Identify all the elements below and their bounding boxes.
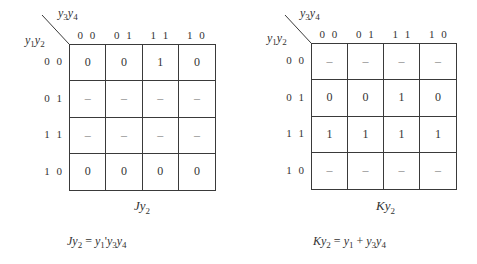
kmap-cell: 0 — [348, 80, 384, 116]
kmap-cell: 1 — [384, 117, 420, 153]
kmap-cell: 0 — [179, 154, 215, 190]
row-header: 0 0 — [34, 55, 64, 67]
kmap-cell: – — [70, 118, 106, 154]
column-header: 0 1 — [106, 29, 143, 41]
column-header: 1 0 — [179, 29, 216, 41]
row-header: 1 1 — [34, 128, 64, 140]
kmap-cell: 1 — [420, 117, 456, 153]
column-header: 0 0 — [311, 28, 348, 40]
kmap-cell: 0 — [420, 80, 456, 116]
row-header: 0 1 — [34, 92, 64, 104]
kmap-cell: – — [348, 44, 384, 80]
column-variable-label: y3y4 — [300, 6, 320, 22]
row-header: 1 1 — [276, 127, 306, 139]
simplified-expression: Jy2 = y1'y3y4 — [67, 234, 127, 250]
kmap-cell: – — [384, 44, 420, 80]
row-variable-label: y1y2 — [267, 31, 287, 47]
simplified-expression: Ky2 = y1 + y3y4 — [313, 234, 386, 250]
kmap-grid: 0 0 1 0 – – – – – – – – 0 0 0 0 — [69, 44, 216, 191]
kmap-cell: – — [143, 118, 179, 154]
kmap-cell: 0 — [179, 45, 215, 81]
kmap-cell: – — [348, 153, 384, 189]
kmap-cell: – — [384, 153, 420, 189]
kmap-cell: 0 — [312, 80, 348, 116]
kmap-grid: – – – – 0 0 1 0 1 1 1 1 – – – – — [311, 43, 457, 190]
row-header: 0 1 — [276, 91, 306, 103]
column-header: 0 0 — [69, 29, 106, 41]
column-header: 1 0 — [421, 28, 458, 40]
kmap-cell: – — [179, 118, 215, 154]
kmap-cell: – — [106, 118, 142, 154]
kmap-cell: – — [420, 153, 456, 189]
kmap-cell: 1 — [384, 80, 420, 116]
kmap-cell: 1 — [312, 117, 348, 153]
kmap-cell: – — [143, 81, 179, 117]
kmap-cell: – — [106, 81, 142, 117]
kmap-cell: 1 — [348, 117, 384, 153]
kmap-cell: – — [420, 44, 456, 80]
column-variable-label: y3y4 — [58, 6, 78, 22]
kmap-cell: 1 — [143, 45, 179, 81]
column-header: 0 1 — [348, 28, 385, 40]
kmap-caption: Jy2 — [134, 198, 150, 216]
kmap-caption: Ky2 — [376, 198, 395, 216]
kmap-cell: – — [70, 81, 106, 117]
column-header: 1 1 — [384, 28, 421, 40]
row-header: 1 0 — [276, 164, 306, 176]
row-variable-label: y1y2 — [25, 33, 45, 49]
kmap-cell: 0 — [143, 154, 179, 190]
row-header: 0 0 — [276, 54, 306, 66]
kmap-cell: 0 — [70, 45, 106, 81]
kmap-cell: – — [312, 153, 348, 189]
kmap-cell: – — [179, 81, 215, 117]
kmap-cell: – — [312, 44, 348, 80]
row-header: 1 0 — [34, 165, 64, 177]
kmap-cell: 0 — [106, 154, 142, 190]
kmap-cell: 0 — [70, 154, 106, 190]
column-header: 1 1 — [142, 29, 179, 41]
kmap-cell: 0 — [106, 45, 142, 81]
